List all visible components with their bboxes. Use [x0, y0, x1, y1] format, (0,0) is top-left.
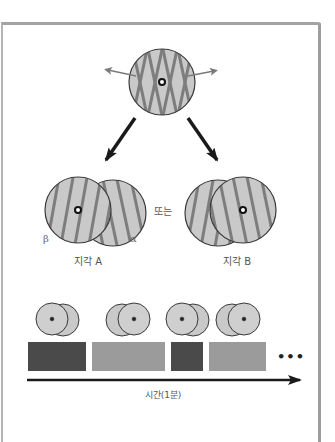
stimulus-circle: [108, 45, 214, 120]
time-axis-label: 시간(1분): [145, 391, 182, 400]
mini-percept-b-1: [106, 303, 150, 336]
percept-b-label: 지각 B: [223, 257, 251, 267]
bar-percept-a-1: [28, 342, 86, 371]
bar-percept-b-2: [209, 342, 266, 371]
arrow-to-percept-a: [106, 118, 135, 160]
timeline-circles: [36, 303, 260, 336]
beta-label: β: [43, 234, 49, 244]
alpha-label: α: [130, 234, 137, 244]
arrow-to-percept-b: [188, 118, 217, 160]
mini-percept-b-2: [216, 303, 260, 336]
mini-percept-a-2: [166, 303, 209, 336]
percept-a-circles: [45, 172, 160, 250]
ellipsis-icon: •••: [277, 350, 305, 363]
percept-b-circles: [185, 172, 276, 252]
bar-percept-b-1: [92, 342, 165, 371]
dominance-bars: [28, 342, 266, 371]
bar-percept-a-2: [171, 342, 203, 371]
mini-percept-a-1: [36, 303, 79, 336]
percept-a-label: 지각 A: [74, 257, 102, 267]
or-label: 또는: [154, 207, 172, 217]
